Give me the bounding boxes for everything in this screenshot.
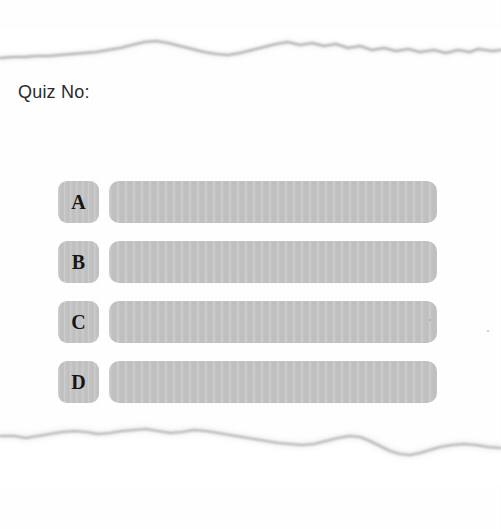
answer-text-bar-d[interactable] bbox=[109, 361, 437, 403]
option-letter-c: C bbox=[71, 312, 85, 332]
answer-option-row-d[interactable]: D bbox=[58, 361, 437, 403]
option-letter-b: B bbox=[72, 252, 85, 272]
answer-text-bar-a[interactable] bbox=[109, 181, 437, 223]
answer-option-row-b[interactable]: B bbox=[58, 241, 437, 283]
option-letter-d: D bbox=[71, 372, 85, 392]
answer-text-bar-c[interactable] bbox=[109, 301, 437, 343]
option-letter-badge-c[interactable]: C bbox=[58, 301, 99, 343]
answer-option-row-c[interactable]: C bbox=[58, 301, 437, 343]
answer-options-list: A B C D bbox=[0, 0, 501, 529]
answer-option-row-a[interactable]: A bbox=[58, 181, 437, 223]
quiz-answer-sheet: Quiz No: A B C D bbox=[0, 0, 501, 529]
paper-speck bbox=[487, 330, 489, 332]
option-letter-badge-a[interactable]: A bbox=[58, 181, 99, 223]
paper-speck bbox=[429, 319, 431, 321]
answer-text-bar-b[interactable] bbox=[109, 241, 437, 283]
option-letter-badge-b[interactable]: B bbox=[58, 241, 99, 283]
option-letter-badge-d[interactable]: D bbox=[58, 361, 99, 403]
option-letter-a: A bbox=[71, 192, 85, 212]
